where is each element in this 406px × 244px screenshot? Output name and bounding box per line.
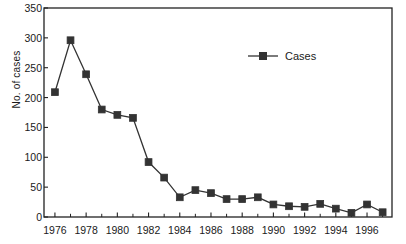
plot-frame (44, 8, 392, 217)
data-point-marker (161, 174, 168, 181)
legend-line-marker-icon (248, 50, 278, 62)
data-point-marker (114, 111, 121, 118)
legend-label-cases: Cases (285, 50, 316, 62)
chart-figure: No. of cases 050100150200250300350 19761… (0, 0, 406, 244)
data-point-marker (317, 200, 324, 207)
data-point-marker (301, 203, 308, 210)
chart-legend: Cases (248, 50, 316, 62)
data-point-marker (98, 106, 105, 113)
data-point-marker (52, 89, 59, 96)
data-point-marker (379, 209, 386, 216)
plot-area (0, 0, 406, 244)
data-point-marker (208, 190, 215, 197)
data-point-marker (239, 196, 246, 203)
data-point-marker (145, 159, 152, 166)
data-point-marker (364, 201, 371, 208)
data-point-marker (270, 201, 277, 208)
data-point-marker (130, 114, 137, 121)
data-point-marker (176, 194, 183, 201)
data-point-marker (286, 203, 293, 210)
data-point-marker (332, 205, 339, 212)
series-line-cases (55, 40, 383, 213)
data-point-marker (192, 187, 199, 194)
data-point-marker (223, 196, 230, 203)
data-point-marker (67, 37, 74, 44)
data-point-marker (348, 209, 355, 216)
data-point-marker (254, 194, 261, 201)
data-point-marker (83, 71, 90, 78)
